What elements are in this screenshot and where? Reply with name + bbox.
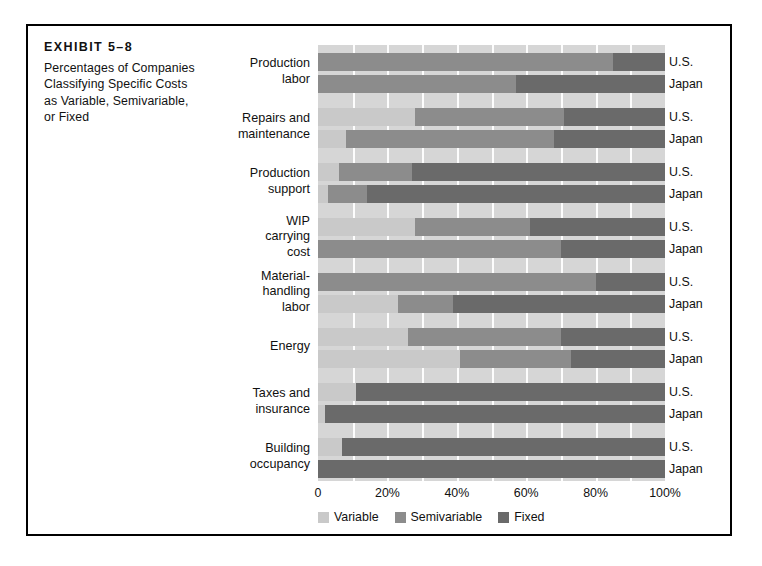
bar-segment-fixed — [367, 185, 665, 203]
chart-bar — [318, 350, 665, 368]
bar-segment-variable — [318, 108, 415, 126]
country-label: Japan — [669, 407, 703, 421]
chart-bar — [318, 163, 665, 181]
country-label: U.S. — [669, 330, 693, 344]
bar-segment-semivariable — [318, 53, 613, 71]
bar-segment-fixed — [596, 273, 665, 291]
category-label: Taxes andinsurance — [160, 386, 310, 417]
category-label-line: Material- — [160, 269, 310, 285]
legend-label: Fixed — [514, 510, 544, 524]
category-label-line: Production — [160, 56, 310, 72]
bar-segment-semivariable — [346, 130, 554, 148]
bar-segment-variable — [318, 350, 460, 368]
chart-bar — [318, 438, 665, 456]
chart-bar — [318, 273, 665, 291]
bar-segment-semivariable — [398, 295, 454, 313]
bar-segment-variable — [318, 185, 328, 203]
legend-label: Variable — [334, 510, 379, 524]
legend-item-variable: Variable — [318, 510, 379, 524]
page-root: EXHIBIT 5–8 Percentages of CompaniesClas… — [0, 0, 762, 566]
legend-item-semivariable: Semivariable — [395, 510, 483, 524]
exhibit-number: EXHIBIT 5–8 — [44, 40, 244, 54]
category-label-line: WIP — [160, 214, 310, 230]
country-label: U.S. — [669, 55, 693, 69]
legend-label: Semivariable — [411, 510, 483, 524]
bar-segment-semivariable — [460, 350, 571, 368]
legend-item-fixed: Fixed — [498, 510, 544, 524]
bar-segment-variable — [318, 328, 408, 346]
bar-segment-fixed — [325, 405, 665, 423]
bar-segment-semivariable — [318, 273, 596, 291]
x-axis-tick: 80% — [583, 486, 608, 500]
bar-segment-semivariable — [328, 185, 366, 203]
category-label-line: labor — [160, 300, 310, 316]
x-axis-tick: 40% — [444, 486, 469, 500]
chart-bar — [318, 460, 665, 478]
x-axis-tick: 100% — [649, 486, 681, 500]
category-label-line: cost — [160, 245, 310, 261]
chart-plot-area — [318, 45, 665, 481]
bar-segment-variable — [318, 130, 346, 148]
chart-bar — [318, 75, 665, 93]
country-label: U.S. — [669, 440, 693, 454]
bar-segment-semivariable — [415, 218, 530, 236]
chart-bar — [318, 295, 665, 313]
country-label: U.S. — [669, 220, 693, 234]
bar-segment-variable — [318, 383, 356, 401]
bar-segment-semivariable — [318, 75, 516, 93]
bar-segment-variable — [318, 163, 339, 181]
country-label: U.S. — [669, 275, 693, 289]
category-label: Repairs andmaintenance — [160, 111, 310, 142]
category-label-line: maintenance — [160, 127, 310, 143]
x-axis-tick: 0 — [315, 486, 322, 500]
bar-segment-fixed — [571, 350, 665, 368]
category-label-line: Energy — [160, 339, 310, 355]
exhibit-frame: EXHIBIT 5–8 Percentages of CompaniesClas… — [26, 24, 732, 536]
bar-segment-fixed — [318, 460, 665, 478]
chart-legend: VariableSemivariableFixed — [318, 510, 678, 524]
chart-bar — [318, 185, 665, 203]
country-label: Japan — [669, 132, 703, 146]
bar-segment-fixed — [613, 53, 665, 71]
category-label: WIPcarryingcost — [160, 214, 310, 261]
x-axis-tick: 20% — [375, 486, 400, 500]
category-label: Energy — [160, 339, 310, 355]
category-label: Material-handlinglabor — [160, 269, 310, 316]
category-label-line: labor — [160, 72, 310, 88]
bar-segment-variable — [318, 218, 415, 236]
legend-swatch-fixed — [498, 512, 509, 523]
category-label-line: insurance — [160, 402, 310, 418]
bar-segment-fixed — [342, 438, 665, 456]
country-label: U.S. — [669, 110, 693, 124]
chart-bar — [318, 130, 665, 148]
chart-bar — [318, 328, 665, 346]
country-label: Japan — [669, 352, 703, 366]
category-label: Buildingoccupancy — [160, 441, 310, 472]
country-label: Japan — [669, 297, 703, 311]
bar-segment-semivariable — [339, 163, 412, 181]
country-label: Japan — [669, 187, 703, 201]
exhibit-description-line: as Variable, Semivariable, — [44, 93, 244, 109]
category-label-line: occupancy — [160, 457, 310, 473]
bar-segment-fixed — [356, 383, 665, 401]
category-label: Productionsupport — [160, 166, 310, 197]
bar-segment-fixed — [412, 163, 665, 181]
category-label: Productionlabor — [160, 56, 310, 87]
country-label: Japan — [669, 462, 703, 476]
category-label-line: Building — [160, 441, 310, 457]
chart-bar — [318, 53, 665, 71]
country-label: U.S. — [669, 165, 693, 179]
bar-segment-variable — [318, 405, 325, 423]
bar-segment-semivariable — [408, 328, 561, 346]
bar-segment-fixed — [564, 108, 665, 126]
chart-bar — [318, 240, 665, 258]
x-axis-tick: 60% — [514, 486, 539, 500]
category-label-line: Taxes and — [160, 386, 310, 402]
chart-bar — [318, 108, 665, 126]
category-label-line: carrying — [160, 229, 310, 245]
chart-bar — [318, 383, 665, 401]
category-label-line: handling — [160, 284, 310, 300]
bar-segment-fixed — [453, 295, 665, 313]
bar-segment-semivariable — [415, 108, 564, 126]
bar-segment-variable — [318, 438, 342, 456]
